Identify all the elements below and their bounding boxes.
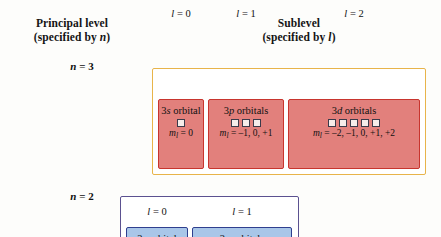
principal-level-label-n2: n = 2 xyxy=(37,190,127,202)
sublevel-label-2p: l = 1 xyxy=(192,206,292,217)
orbital-2p-word: orbitals xyxy=(230,233,264,237)
l-equals-3d: = xyxy=(347,8,358,19)
principal-level-label-n3: n = 3 xyxy=(37,60,127,72)
orbital-box xyxy=(339,119,347,127)
sublevel-heading-prefix: (specified by xyxy=(262,31,328,43)
orbital-card-3d-title: 3d orbitals xyxy=(289,105,419,116)
orbital-2s-word: orbital xyxy=(147,233,177,237)
ml-equals-3s: = xyxy=(178,128,188,138)
l-equals-2p: = xyxy=(235,206,246,217)
orbital-card-2s-title: 2s orbital xyxy=(127,233,187,237)
ml-equals-3d: = xyxy=(322,128,332,138)
sublevel-heading-line2: (specified by l) xyxy=(196,30,402,44)
l-equals-2s: = xyxy=(150,206,161,217)
orbital-box xyxy=(328,119,336,127)
n3-equals: = xyxy=(76,60,88,72)
principal-heading-prefix: (specified by xyxy=(34,31,100,43)
orbital-box xyxy=(372,119,380,127)
orbital-box xyxy=(231,119,239,127)
orbital-card-3p: 3p orbitals ml = –1, 0, +1 xyxy=(208,99,284,169)
orbital-box xyxy=(361,119,369,127)
orbital-3d-word: orbitals xyxy=(342,105,376,116)
ml-symbol-3s: m xyxy=(169,128,176,138)
orbital-card-3s: 3s orbital ml = 0 xyxy=(158,99,204,169)
figure-canvas: Principal level (specified by n) Subleve… xyxy=(0,0,441,237)
principal-level-heading-line2: (specified by n) xyxy=(8,30,136,44)
ml-equals-3p: = xyxy=(229,128,239,138)
orbital-boxes-3p xyxy=(209,119,283,127)
l-equals-3p: = xyxy=(239,8,250,19)
ml-values-3p: –1, 0, +1 xyxy=(239,128,273,138)
orbital-boxes-3s xyxy=(159,119,203,127)
orbital-card-3p-title: 3p orbitals xyxy=(209,105,283,116)
sublevel-label-3p: l = 1 xyxy=(208,8,284,19)
ml-symbol-3d: m xyxy=(313,128,320,138)
orbital-boxes-3d xyxy=(289,119,419,127)
n3-value: 3 xyxy=(88,60,94,72)
orbital-card-2s: 2s orbital xyxy=(126,227,188,237)
ml-values-3s: 0 xyxy=(188,128,193,138)
l-value-2s: 0 xyxy=(161,206,166,217)
orbital-box xyxy=(177,119,185,127)
principal-level-heading: Principal level (specified by n) xyxy=(8,16,136,44)
l-equals-3s: = xyxy=(174,8,185,19)
orbital-box xyxy=(242,119,250,127)
ml-label-3p: ml = –1, 0, +1 xyxy=(209,128,283,140)
orbital-box xyxy=(253,119,261,127)
n2-equals: = xyxy=(76,190,88,202)
orbital-3s-word: orbital xyxy=(171,105,201,116)
sublevel-label-2s: l = 0 xyxy=(126,206,188,217)
orbital-card-3s-title: 3s orbital xyxy=(159,105,203,116)
l-value-3d: 2 xyxy=(358,8,363,19)
ml-label-3d: ml = –2, –1, 0, +1, +2 xyxy=(289,128,419,140)
sublevel-heading: Sublevel (specified by l) xyxy=(196,16,402,44)
orbital-card-2p: 2p orbitals xyxy=(192,227,292,237)
ml-label-3s: ml = 0 xyxy=(159,128,203,140)
l-value-3p: 1 xyxy=(250,8,255,19)
sublevel-heading-suffix: ) xyxy=(332,31,336,43)
l-value-3s: 0 xyxy=(185,8,190,19)
ml-values-3d: –2, –1, 0, +1, +2 xyxy=(332,128,395,138)
sublevel-label-3s: l = 0 xyxy=(158,8,204,19)
orbital-card-2p-title: 2p orbitals xyxy=(193,233,291,237)
principal-heading-suffix: ) xyxy=(106,31,110,43)
principal-level-heading-line1: Principal level xyxy=(8,16,136,30)
orbital-card-3d: 3d orbitals ml = –2, –1, 0, +1, +2 xyxy=(288,99,420,169)
l-value-2p: 1 xyxy=(246,206,251,217)
n2-value: 2 xyxy=(88,190,94,202)
orbital-3p-word: orbitals xyxy=(234,105,268,116)
orbital-box xyxy=(350,119,358,127)
sublevel-label-3d: l = 2 xyxy=(288,8,420,19)
